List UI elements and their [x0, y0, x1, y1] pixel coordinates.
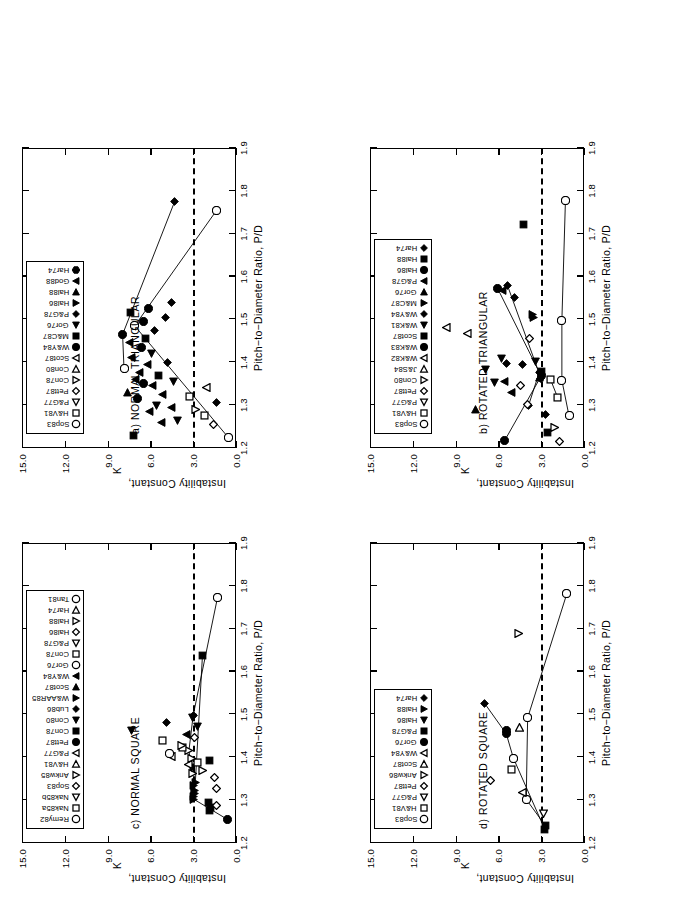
legend-item[interactable]: W&Y84: [391, 748, 429, 759]
legend-label: J&S84: [394, 364, 417, 375]
legend-label: Scot87: [393, 331, 417, 342]
legend-item[interactable]: Sop83: [395, 419, 429, 430]
y-tick-label: 15.0: [17, 849, 28, 868]
legend-item[interactable]: P&G78: [392, 726, 429, 737]
legend-item[interactable]: Pett87: [394, 781, 429, 792]
legend-marker-circle-open-icon: [418, 816, 429, 824]
legend-item[interactable]: Sop83: [47, 419, 81, 430]
legend-item[interactable]: H&V81: [392, 408, 429, 419]
legend-item[interactable]: H&V81: [44, 759, 81, 770]
legend-item[interactable]: Con78: [46, 375, 81, 386]
legend-marker-circle-open-icon: [70, 421, 81, 429]
legend-item[interactable]: Gor76: [47, 660, 81, 671]
data-point: [189, 711, 198, 720]
data-point: [162, 718, 171, 727]
x-tick-label: 1.8: [238, 579, 249, 593]
data-point: [463, 329, 472, 338]
legend-item[interactable]: Con80: [46, 715, 81, 726]
legend-item[interactable]: Gor76: [47, 320, 81, 331]
legend-item[interactable]: Har74: [396, 693, 429, 704]
legend-label: W&K82: [391, 353, 417, 364]
legend-item[interactable]: Con80: [394, 375, 429, 386]
legend-item[interactable]: Har74: [48, 265, 81, 276]
legend-item[interactable]: Tan81: [48, 594, 81, 605]
legend-item[interactable]: H&V81: [44, 408, 81, 419]
y-tick: [236, 836, 237, 843]
legend-item[interactable]: Con78: [46, 649, 81, 660]
legend-item[interactable]: Har74: [396, 243, 429, 254]
legend-marker-triangle-right-open-icon: [70, 607, 81, 615]
legend-item[interactable]: Gor76: [395, 287, 429, 298]
legend-item[interactable]: Ankw86: [389, 770, 429, 781]
legend-item[interactable]: Ankw85: [41, 770, 81, 781]
x-tick-label: 1.7: [238, 622, 249, 636]
legend-item[interactable]: M&C87: [391, 298, 429, 309]
legend-item[interactable]: P&G77: [392, 397, 429, 408]
data-point: [152, 401, 161, 410]
data-point: [209, 420, 218, 429]
legend-item[interactable]: Con78: [46, 726, 81, 737]
legend-item[interactable]: Scot87: [393, 331, 429, 342]
x-tick-label: 1.6: [586, 665, 597, 679]
legend-marker-triangle-left-filled-icon: [418, 322, 429, 330]
legend-item[interactable]: Hal86: [49, 298, 81, 309]
legend-item[interactable]: Hal88: [397, 254, 429, 265]
legend-item[interactable]: P&G77: [392, 792, 429, 803]
legend-marker-circle-open-icon: [70, 662, 81, 670]
legend-item[interactable]: Gor76: [395, 737, 429, 748]
legend-item[interactable]: Pett87: [394, 386, 429, 397]
legend-item[interactable]: P&G77: [44, 397, 81, 408]
legend-item[interactable]: Scot87: [45, 353, 81, 364]
legend-item[interactable]: Nak85a: [42, 803, 81, 814]
legend-item[interactable]: W&Y84: [43, 671, 81, 682]
legend-marker-triangle-down-filled-icon: [70, 695, 81, 703]
y-tick-label: 9.0: [102, 454, 113, 468]
legend-item[interactable]: P&G78: [44, 309, 81, 320]
legend-item[interactable]: Sop83: [47, 781, 81, 792]
legend-item[interactable]: God88: [46, 276, 81, 287]
legend-item[interactable]: Remy82: [40, 814, 81, 825]
legend-item[interactable]: Scot87: [393, 759, 429, 770]
data-point: [557, 316, 566, 325]
x-tick-label: 1.7: [586, 622, 597, 636]
legend-item[interactable]: Sop83: [395, 814, 429, 825]
legend-item[interactable]: Hal88: [397, 704, 429, 715]
legend-item[interactable]: W&K83: [391, 342, 429, 353]
legend-item[interactable]: Hal86: [397, 715, 429, 726]
legend-item[interactable]: Lub86: [47, 704, 81, 715]
legend-item[interactable]: Pett87: [46, 386, 81, 397]
legend-item[interactable]: Hal88: [49, 616, 81, 627]
legend-item[interactable]: W&K82: [391, 353, 429, 364]
legend-item[interactable]: P&G77: [44, 748, 81, 759]
legend-item[interactable]: H&V81: [392, 803, 429, 814]
legend-item[interactable]: Hal86: [397, 265, 429, 276]
legend-item[interactable]: P&G78: [392, 276, 429, 287]
data-point: [204, 798, 213, 807]
data-point: [541, 410, 550, 419]
legend-item[interactable]: W&Y84: [391, 309, 429, 320]
legend-item[interactable]: Hal88: [49, 287, 81, 298]
data-point: [212, 206, 221, 215]
legend-item[interactable]: Con80: [46, 364, 81, 375]
legend-item[interactable]: Pett87: [46, 737, 81, 748]
data-point: [191, 778, 200, 787]
x-tick-label: 1.5: [238, 313, 249, 327]
legend-item[interactable]: Nak85b: [42, 792, 81, 803]
legend-item[interactable]: Har74: [48, 605, 81, 616]
x-tick-label: 1.6: [238, 665, 249, 679]
x-tick-label: 1.6: [238, 270, 249, 284]
legend-item[interactable]: W&AAR85: [32, 693, 81, 704]
data-point: [500, 436, 509, 445]
legend-item[interactable]: P&G78: [44, 638, 81, 649]
data-point: [223, 815, 232, 824]
data-point: [539, 809, 548, 818]
x-tick-label: 1.2: [238, 441, 249, 455]
legend-item[interactable]: W&Y84: [43, 342, 81, 353]
legend-item[interactable]: Scot87: [45, 682, 81, 693]
legend-item[interactable]: M&C87: [43, 331, 81, 342]
legend-item[interactable]: J&S84: [394, 364, 429, 375]
legend-marker-triangle-left-open-icon: [418, 794, 429, 802]
legend-item[interactable]: Hal86: [49, 627, 81, 638]
legend-item[interactable]: W&K81: [391, 320, 429, 331]
data-point: [516, 381, 525, 390]
